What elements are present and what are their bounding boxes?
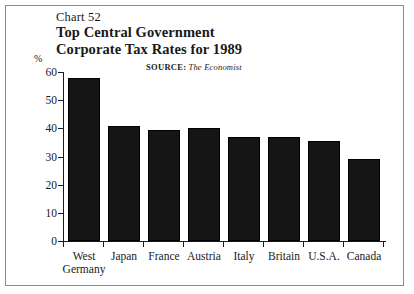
bar-britain bbox=[268, 137, 300, 241]
y-axis-tick-mark bbox=[58, 100, 63, 101]
y-axis-tick-mark bbox=[58, 185, 63, 186]
x-axis-label-line-1: Japan bbox=[111, 250, 137, 262]
y-axis-tick-label: 10 bbox=[31, 207, 57, 219]
x-axis-tick-mark bbox=[103, 242, 104, 247]
x-axis-tick-mark bbox=[383, 242, 384, 247]
x-axis-tick-mark bbox=[223, 242, 224, 247]
plot-area: % 0102030405060 WestGermanyJapanFranceAu… bbox=[0, 0, 414, 294]
x-axis-tick-mark bbox=[303, 242, 304, 247]
y-axis-tick-label: 20 bbox=[31, 179, 57, 191]
bar-west-germany bbox=[68, 78, 100, 241]
x-axis-label-canada: Canada bbox=[336, 250, 392, 263]
y-axis-tick-mark bbox=[58, 128, 63, 129]
bar-canada bbox=[348, 159, 380, 241]
x-axis-label-line-1: Italy bbox=[233, 250, 254, 262]
y-axis-tick-label: 30 bbox=[31, 151, 57, 163]
x-axis-label-line-1: Canada bbox=[347, 250, 381, 262]
y-axis-tick-mark bbox=[58, 72, 63, 73]
bar-italy bbox=[228, 137, 260, 241]
x-axis-tick-mark bbox=[343, 242, 344, 247]
bar-japan bbox=[108, 126, 140, 241]
bar-austria bbox=[188, 128, 220, 241]
x-axis-tick-mark bbox=[263, 242, 264, 247]
x-axis-label-line-1: France bbox=[148, 250, 179, 262]
y-axis-tick-label: 60 bbox=[31, 66, 57, 78]
y-axis-tick-mark bbox=[58, 213, 63, 214]
x-axis-line bbox=[63, 241, 386, 242]
y-axis-tick-label: 50 bbox=[31, 94, 57, 106]
x-axis-tick-mark bbox=[63, 242, 64, 247]
bar-u-s-a bbox=[308, 141, 340, 241]
x-axis-label-line-2: Germany bbox=[56, 263, 112, 276]
y-axis-tick-mark bbox=[58, 157, 63, 158]
chart-figure: Chart 52 Top Central Government Corporat… bbox=[0, 0, 414, 294]
bar-france bbox=[148, 130, 180, 241]
y-axis-tick-label: 0 bbox=[31, 235, 57, 247]
x-axis-tick-mark bbox=[143, 242, 144, 247]
y-axis-tick-label: 40 bbox=[31, 122, 57, 134]
x-axis-label-line-1: West bbox=[73, 250, 96, 262]
x-axis-tick-mark bbox=[183, 242, 184, 247]
y-axis-unit-label: % bbox=[34, 53, 42, 64]
y-axis-line bbox=[63, 72, 64, 242]
